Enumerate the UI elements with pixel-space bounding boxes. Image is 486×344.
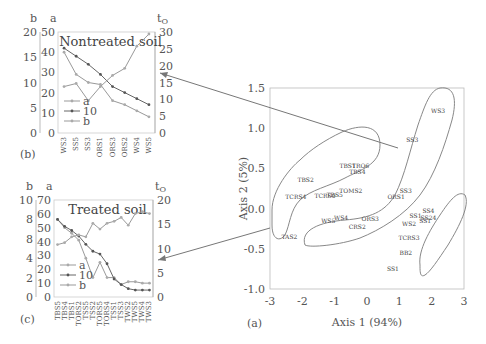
- point-label: WS2: [402, 220, 416, 227]
- scatter-frame: [270, 88, 464, 289]
- data-point: [123, 67, 126, 70]
- pca-scatter-plot: -3-2-10123-1.0-0.50.00.51.01.5Axis 1 (94…: [237, 82, 468, 330]
- panel-label: (c): [20, 313, 35, 326]
- panel-label: (b): [20, 148, 36, 161]
- point-label: WS3: [431, 107, 445, 114]
- y-axis-label: Axis 2 (5%): [237, 157, 250, 221]
- y-tick: -0.5: [244, 243, 265, 256]
- data-point: [148, 33, 151, 36]
- x-axis-label: Axis 1 (94%): [331, 316, 402, 329]
- a-tick: 40: [37, 236, 51, 249]
- data-point: [134, 212, 137, 215]
- arrow-to-nontreated: [160, 73, 398, 148]
- data-point: [99, 253, 102, 256]
- data-point: [111, 85, 114, 88]
- a-tick: 40: [41, 46, 55, 59]
- data-point: [134, 289, 137, 292]
- treated-soil-chart: 024881001020304050607005101520batOTreate…: [19, 180, 171, 326]
- legend-label: b: [79, 279, 86, 292]
- category-label: ORS1: [96, 137, 104, 157]
- data-point: [63, 225, 66, 228]
- data-point: [91, 222, 94, 225]
- data-point: [135, 109, 138, 112]
- y-tick: -1.0: [244, 283, 265, 296]
- data-point: [148, 282, 151, 285]
- point-label: SS4: [422, 207, 434, 214]
- point-label: TCRS3: [399, 234, 420, 241]
- y-tick: 0.0: [248, 203, 266, 216]
- point-label: ORS3: [362, 215, 380, 222]
- data-point: [123, 91, 126, 94]
- b-axis-label: b: [30, 12, 37, 25]
- t-tick: 15: [159, 77, 173, 90]
- point-label: TBS5: [326, 191, 343, 198]
- data-point: [135, 45, 138, 48]
- category-label: SS5: [72, 137, 80, 151]
- category-label: WS3: [60, 137, 68, 153]
- nontreated-soil-chart: 0510152001020304050051015202530batONontr…: [20, 12, 173, 161]
- b-tick: 20: [23, 26, 37, 39]
- data-point: [127, 224, 130, 227]
- a-tick: 50: [41, 26, 55, 39]
- t-tick: 20: [159, 60, 173, 73]
- point-label: TAS2: [281, 233, 297, 240]
- data-point: [123, 103, 126, 106]
- y-tick: 1.0: [248, 122, 266, 135]
- data-point: [113, 278, 116, 281]
- data-point: [111, 74, 114, 77]
- a-tick: 10: [41, 107, 55, 120]
- x-tick: -2: [297, 295, 308, 308]
- data-point: [77, 239, 80, 242]
- point-label: SS3: [406, 136, 418, 143]
- b-tick: 10: [19, 194, 33, 207]
- data-point: [99, 73, 102, 76]
- t-axis-label: tO: [155, 180, 166, 194]
- data-point: [134, 280, 137, 283]
- b-tick: 10: [23, 77, 37, 90]
- x-tick: -1: [329, 295, 340, 308]
- x-tick: 3: [461, 295, 468, 308]
- a-tick: 20: [41, 87, 55, 100]
- x-tick: 0: [364, 295, 371, 308]
- category-label: ORS2: [121, 137, 129, 157]
- point-label: TCRS4: [285, 193, 306, 200]
- b-tick: 5: [30, 102, 37, 115]
- data-point: [120, 216, 123, 219]
- data-point: [99, 228, 102, 231]
- a-tick: 20: [37, 263, 51, 276]
- t-tick: 5: [157, 267, 164, 280]
- data-point: [113, 220, 116, 223]
- a-tick: 30: [41, 66, 55, 79]
- point-label: SS1: [419, 217, 431, 224]
- data-point: [99, 261, 102, 264]
- cluster-outline: [420, 194, 467, 276]
- category-label: WS4: [133, 136, 141, 153]
- category-label: WS5: [145, 137, 153, 153]
- data-point: [148, 115, 151, 118]
- data-point: [120, 283, 123, 286]
- t-tick: 10: [159, 93, 173, 106]
- x-tick: 2: [428, 295, 435, 308]
- data-point: [56, 218, 59, 221]
- data-point: [70, 232, 73, 235]
- data-point: [127, 280, 130, 283]
- figure-canvas: 0510152001020304050051015202530batONontr…: [0, 0, 486, 344]
- data-point: [106, 276, 109, 279]
- panel-label: (a): [247, 317, 262, 330]
- a-tick: 70: [37, 194, 51, 207]
- t-tick: 20: [157, 194, 171, 207]
- b-tick: 2: [26, 272, 33, 285]
- t-tick: 0: [159, 127, 166, 140]
- b-axis-label: b: [26, 180, 33, 193]
- data-point: [148, 103, 151, 106]
- a-tick: 30: [37, 249, 51, 262]
- data-point: [84, 243, 87, 246]
- data-point: [148, 212, 151, 215]
- data-point: [70, 229, 73, 232]
- data-point: [106, 262, 109, 265]
- data-point: [75, 82, 78, 85]
- a-tick: 60: [37, 208, 51, 221]
- x-tick: -3: [265, 295, 276, 308]
- b-tick: 8: [26, 233, 33, 246]
- a-tick: 0: [44, 291, 51, 304]
